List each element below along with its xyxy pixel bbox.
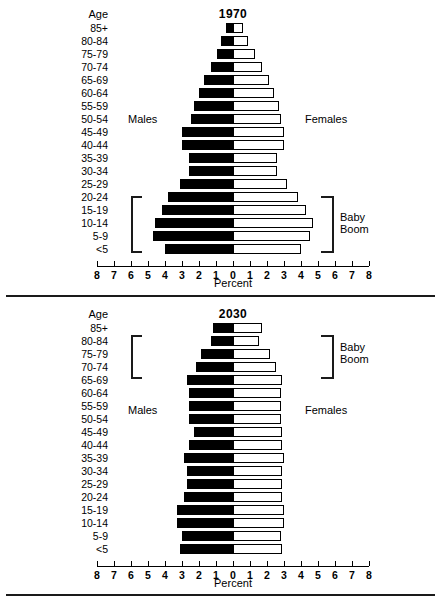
pyramid-panel-1970: 1970 Age 85+80-8475-7970-7465-6960-6455-… — [0, 0, 441, 297]
bar-female — [233, 505, 284, 515]
bar-row — [0, 543, 441, 556]
bar-male — [226, 23, 233, 33]
baby-boom-line1-2030: Baby — [340, 341, 365, 353]
bar-female — [233, 518, 284, 528]
bar-female — [233, 544, 282, 554]
bar-female — [233, 192, 298, 202]
bar-row — [0, 504, 441, 517]
bar-male — [187, 375, 233, 385]
bar-row — [0, 87, 441, 100]
bar-male — [189, 414, 233, 424]
bar-row — [0, 139, 441, 152]
bar-row — [0, 113, 441, 126]
axis-tick-label: 4 — [294, 569, 308, 581]
bar-row — [0, 61, 441, 74]
bar-female — [233, 440, 282, 450]
bar-row — [0, 413, 441, 426]
axis-tick — [301, 561, 302, 566]
bar-male — [182, 140, 233, 150]
axis-tick-label: 7 — [107, 569, 121, 581]
axis-tick-label: 5 — [311, 269, 325, 281]
bar-male — [211, 336, 233, 346]
bar-female — [233, 414, 281, 424]
axis-line — [97, 266, 369, 267]
chart-title-1970: 1970 — [183, 7, 283, 21]
bar-female — [233, 166, 277, 176]
bar-row — [0, 465, 441, 478]
axis-tick — [199, 561, 200, 566]
axis-tick — [318, 561, 319, 566]
axis-tick — [284, 561, 285, 566]
bar-row — [0, 100, 441, 113]
axis-tick — [216, 561, 217, 566]
bar-male — [196, 362, 233, 372]
axis-tick — [114, 561, 115, 566]
axis-tick-label: 8 — [90, 569, 104, 581]
bars-area-1970 — [0, 22, 441, 256]
bar-female — [233, 36, 248, 46]
bar-female — [233, 140, 284, 150]
bar-female — [233, 466, 282, 476]
bar-female — [233, 492, 282, 502]
bar-male — [194, 101, 233, 111]
axis-tick — [148, 561, 149, 566]
bar-female — [233, 218, 313, 228]
axis-tick — [335, 261, 336, 266]
bar-row — [0, 348, 441, 361]
axis-tick — [165, 261, 166, 266]
bar-row — [0, 230, 441, 243]
axis-tick-label: 6 — [328, 569, 342, 581]
baby-boom-label-2030: Baby Boom — [340, 342, 369, 365]
baby-boom-line2-2030: Boom — [340, 353, 369, 365]
bar-row — [0, 335, 441, 348]
females-label-2030: Females — [305, 404, 347, 416]
bar-row — [0, 439, 441, 452]
bar-row — [0, 35, 441, 48]
bar-male — [189, 166, 233, 176]
axis-tick — [284, 261, 285, 266]
bar-male — [182, 531, 233, 541]
bar-row — [0, 191, 441, 204]
bar-male — [184, 453, 233, 463]
axis-tick — [114, 261, 115, 266]
bar-female — [233, 323, 262, 333]
bar-male — [165, 244, 233, 254]
axis-tick — [250, 261, 251, 266]
bar-row — [0, 48, 441, 61]
bar-female — [233, 388, 281, 398]
age-column-header-2030: Age — [48, 308, 108, 320]
bar-male — [177, 518, 233, 528]
bar-female — [233, 179, 287, 189]
bar-male — [189, 401, 233, 411]
females-label-1970: Females — [305, 113, 347, 125]
bar-row — [0, 517, 441, 530]
axis-tick — [182, 561, 183, 566]
bar-male — [153, 231, 233, 241]
bar-female — [233, 205, 306, 215]
axis-tick-label: 8 — [362, 569, 376, 581]
bar-row — [0, 361, 441, 374]
axis-tick-label: 8 — [90, 269, 104, 281]
x-axis-title-1970: Percent — [183, 277, 283, 289]
bar-row — [0, 243, 441, 256]
baby-boom-line1-1970: Baby — [340, 211, 365, 223]
bar-female — [233, 114, 281, 124]
axis-tick — [97, 261, 98, 266]
bar-row — [0, 478, 441, 491]
bar-female — [233, 49, 255, 59]
bar-row — [0, 217, 441, 230]
axis-tick — [352, 561, 353, 566]
axis-tick — [267, 561, 268, 566]
axis-tick — [148, 261, 149, 266]
axis-tick — [352, 261, 353, 266]
bar-male — [221, 36, 233, 46]
bar-female — [233, 427, 282, 437]
bar-female — [233, 231, 310, 241]
bar-row — [0, 374, 441, 387]
axis-tick — [131, 561, 132, 566]
bar-male — [180, 179, 233, 189]
axis-tick — [369, 261, 370, 266]
bar-row — [0, 400, 441, 413]
bar-female — [233, 101, 279, 111]
axis-tick — [182, 261, 183, 266]
